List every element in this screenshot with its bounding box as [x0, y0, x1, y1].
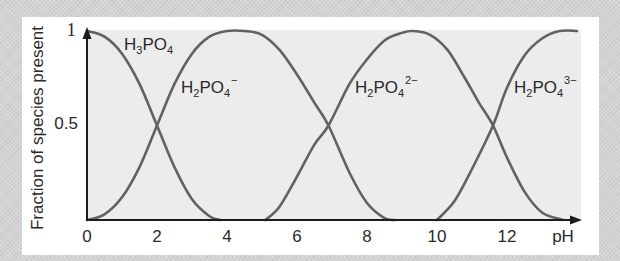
label-h2po4-3minus: H2PO43−: [514, 74, 577, 99]
label-h2po4-2minus-sub2: 4: [398, 87, 404, 99]
x-tick-0: 0: [82, 227, 91, 247]
y-tick-0.5: 0.5: [44, 114, 78, 134]
label-h2po4-minus: H2PO4−: [181, 74, 238, 99]
label-h2po4-minus-po: PO: [199, 78, 224, 97]
label-h2po4-3minus-po: PO: [532, 78, 557, 97]
x-tick-6: 6: [292, 227, 301, 247]
x-tick-2: 2: [152, 227, 161, 247]
label-h2po4-2minus-po: PO: [373, 78, 398, 97]
label-h2po4-3minus-sub2: 4: [557, 87, 563, 99]
x-tick-8: 8: [362, 227, 371, 247]
x-tick-4: 4: [222, 227, 231, 247]
speciation-chart: [0, 0, 620, 261]
label-h2po4-2minus: H2PO42−: [355, 74, 418, 99]
label-h3po4-h: H: [124, 35, 136, 54]
label-h2po4-3minus-charge: 3−: [564, 74, 577, 86]
label-h2po4-minus-sub2: 4: [224, 87, 230, 99]
label-h2po4-2minus-h: H: [355, 78, 367, 97]
label-h2po4-minus-charge: −: [231, 74, 237, 86]
label-h2po4-minus-h: H: [181, 78, 193, 97]
plot-area: [87, 30, 581, 220]
y-tick-1: 1: [58, 19, 76, 41]
x-tick-10: 10: [428, 227, 447, 247]
x-tick-12: 12: [498, 227, 517, 247]
label-h3po4-po: PO: [142, 35, 167, 54]
label-h3po4: H3PO4: [124, 35, 173, 56]
label-h2po4-2minus-charge: 2−: [405, 74, 418, 86]
x-axis-label: pH: [552, 227, 574, 247]
label-h2po4-3minus-h: H: [514, 78, 526, 97]
label-h3po4-sub2: 4: [167, 44, 173, 56]
